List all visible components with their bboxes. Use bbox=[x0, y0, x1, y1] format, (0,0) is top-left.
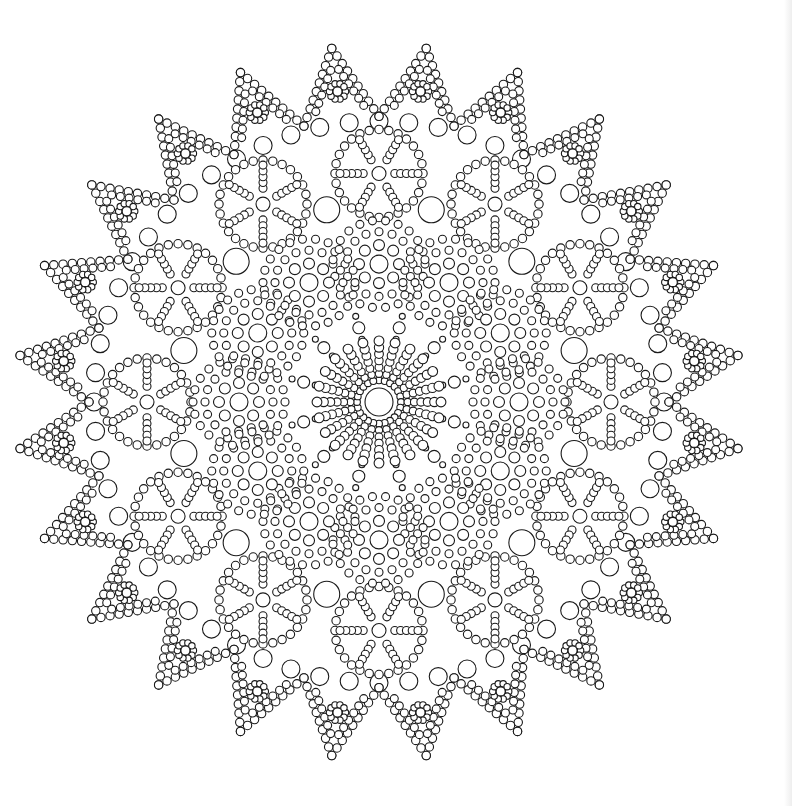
rosette-dot bbox=[475, 550, 483, 558]
spike-inner-dot bbox=[512, 662, 520, 670]
rosette-dot bbox=[405, 569, 413, 577]
wheel-spoke-dot bbox=[595, 546, 603, 554]
rosette-dot bbox=[274, 530, 282, 538]
rosette-dot bbox=[503, 424, 511, 432]
spike-inner-dot bbox=[691, 373, 699, 381]
rosette-dot bbox=[312, 561, 320, 569]
rosette-dot bbox=[520, 490, 528, 498]
center-spoke-dot bbox=[428, 367, 438, 377]
spike-inner-dot bbox=[423, 730, 431, 738]
spike-flower-center bbox=[122, 207, 131, 216]
wheel-spoke-dot bbox=[607, 437, 615, 445]
rosette-dot bbox=[210, 317, 218, 325]
outer-chain-dot bbox=[649, 335, 667, 353]
wheel-hub bbox=[372, 624, 386, 638]
rosette-dot bbox=[479, 279, 487, 287]
spike-inner-dot bbox=[65, 516, 73, 524]
rosette-dot bbox=[336, 560, 344, 568]
wheel-spoke-dot bbox=[293, 181, 301, 189]
wheel-spoke-dot bbox=[595, 478, 603, 486]
wheel-rim-dot bbox=[134, 493, 142, 501]
rosette-dot bbox=[484, 255, 492, 263]
rosette-dot bbox=[438, 561, 446, 569]
wheel-rim-dot bbox=[448, 586, 456, 594]
wheel-spoke-dot bbox=[293, 615, 301, 623]
spike-inner-dot bbox=[511, 680, 519, 688]
center-spoke-dot bbox=[374, 336, 384, 346]
spike-inner-dot bbox=[122, 559, 130, 567]
outer-chain-dot bbox=[630, 279, 648, 297]
rosette-dot bbox=[499, 410, 510, 421]
rosette-dot bbox=[458, 264, 469, 275]
wheel-rim-dot bbox=[201, 478, 209, 486]
wheel-rim-dot bbox=[286, 166, 294, 174]
wheel-rim-dot bbox=[501, 553, 509, 561]
wheel-rim-dot bbox=[414, 150, 422, 158]
rosette-dot bbox=[339, 279, 347, 287]
rosette-center bbox=[440, 512, 458, 530]
rosette-dot bbox=[406, 524, 414, 532]
rosette-dot bbox=[201, 398, 209, 406]
spike-inner-dot bbox=[634, 603, 642, 611]
rosette-dot bbox=[318, 249, 326, 257]
rosette-dot bbox=[458, 547, 466, 555]
rosette-dot bbox=[356, 300, 364, 308]
spike-inner-dot bbox=[67, 378, 75, 386]
spike-dot bbox=[380, 105, 388, 113]
rosette-dot bbox=[414, 512, 422, 520]
rosette-dot bbox=[292, 249, 300, 257]
rosette-dot bbox=[528, 368, 536, 376]
rosette-dot bbox=[304, 535, 315, 546]
spike-dot bbox=[88, 181, 96, 189]
rosette-dot bbox=[489, 530, 497, 538]
spike-inner-dot bbox=[165, 661, 173, 669]
wheel-rim-dot bbox=[418, 636, 426, 644]
rosette-dot bbox=[359, 245, 370, 256]
wheel-hub bbox=[372, 166, 386, 180]
spike-flower-center bbox=[496, 687, 505, 696]
spike-dot bbox=[85, 398, 93, 406]
center-spoke-dot bbox=[434, 381, 444, 391]
wheel-rim-dot bbox=[456, 172, 464, 180]
wheel-spoke-dot bbox=[537, 284, 545, 292]
center-circle bbox=[365, 388, 393, 416]
rosette-dot bbox=[289, 291, 300, 302]
rosette-dot bbox=[491, 279, 499, 287]
wheel-rim-dot bbox=[615, 531, 623, 539]
outer-chain-dot bbox=[158, 205, 176, 223]
rosette-dot bbox=[542, 329, 550, 337]
spike-dot bbox=[156, 672, 164, 680]
wheel-rim-dot bbox=[177, 425, 185, 433]
spike-inner-dot bbox=[511, 116, 519, 124]
spike-inner-dot bbox=[59, 423, 67, 431]
rosette-dot bbox=[554, 374, 562, 382]
wheel-rim-dot bbox=[201, 249, 209, 257]
spike-inner-dot bbox=[432, 705, 440, 713]
wheel-rim-dot bbox=[347, 135, 355, 143]
rosette-dot bbox=[281, 540, 289, 548]
wheel-rim-dot bbox=[115, 363, 123, 371]
spike-inner-dot bbox=[72, 457, 80, 465]
rosette-dot bbox=[472, 306, 480, 314]
spike-dot bbox=[519, 141, 527, 149]
rosette-dot bbox=[472, 352, 480, 360]
spike-inner-dot bbox=[276, 110, 284, 118]
outer-chain-dot bbox=[561, 184, 579, 202]
wheel-spoke-dot bbox=[225, 181, 233, 189]
wheel-rim-dot bbox=[619, 274, 627, 282]
rosette-dot bbox=[490, 424, 498, 432]
spike-dot bbox=[163, 119, 171, 127]
outer-chain-dot bbox=[561, 602, 579, 620]
wheel-spoke-dot bbox=[155, 250, 163, 258]
rosette-dot bbox=[375, 504, 383, 512]
rosette-dot bbox=[318, 264, 329, 275]
wheel-rim-dot bbox=[240, 556, 248, 564]
outer-chain-dot bbox=[429, 668, 447, 686]
rosette-dot bbox=[394, 534, 405, 545]
spike-inner-dot bbox=[501, 87, 509, 95]
rosette-dot bbox=[499, 383, 510, 394]
wheel-rim-dot bbox=[184, 241, 192, 249]
spike-inner-dot bbox=[510, 99, 518, 107]
wheel-spoke-dot bbox=[194, 546, 202, 554]
rosette-center bbox=[300, 512, 318, 530]
